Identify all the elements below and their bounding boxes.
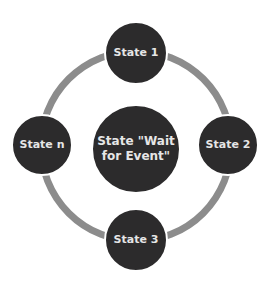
node-label: State 2 — [206, 138, 251, 152]
node-state-1: State 1 — [104, 21, 168, 85]
node-label: State n — [20, 138, 65, 152]
center-node-label-line1: State "Wait — [97, 134, 175, 149]
node-state-2: State 2 — [197, 114, 259, 176]
node-state-3: State 3 — [104, 208, 168, 272]
center-node-wait-for-event: State "Wait for Event" — [91, 104, 181, 194]
node-state-n: State n — [11, 114, 73, 176]
center-node-label-line2: for Event" — [97, 149, 175, 164]
node-label: State 1 — [114, 46, 159, 60]
node-label: State 3 — [114, 233, 159, 247]
